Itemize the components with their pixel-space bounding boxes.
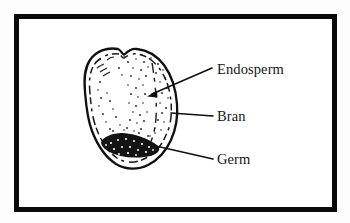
bran-label: Bran <box>217 108 246 124</box>
grain-kernel-figure: Endosperm Bran Germ <box>0 0 350 223</box>
diagram-canvas: Endosperm Bran Germ <box>0 0 350 223</box>
germ-label: Germ <box>217 151 251 167</box>
endosperm-label: Endosperm <box>217 61 285 77</box>
